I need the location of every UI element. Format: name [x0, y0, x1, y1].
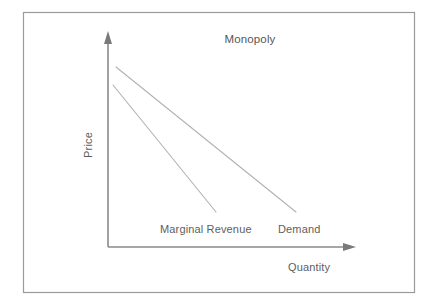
demand-curve-line [116, 67, 296, 212]
y-axis-arrow-icon [104, 31, 112, 44]
chart-canvas: Monopoly Price Quantity Marginal Revenue… [0, 0, 438, 306]
x-axis-label: Quantity [288, 261, 331, 273]
marginal-revenue-curve-line [113, 85, 216, 212]
demand-label: Demand [278, 223, 320, 235]
y-axis-label: Price [82, 132, 94, 158]
x-axis-arrow-icon [343, 243, 356, 251]
monopoly-chart-figure: Monopoly Price Quantity Marginal Revenue… [0, 0, 438, 306]
marginal-revenue-label: Marginal Revenue [160, 223, 252, 235]
chart-title: Monopoly [224, 33, 275, 45]
